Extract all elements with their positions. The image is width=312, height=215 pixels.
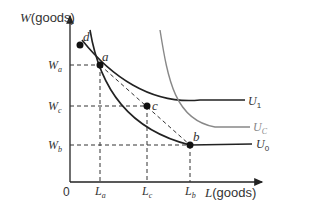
point-label-b: b — [193, 129, 200, 144]
point-label-a: a — [102, 49, 109, 64]
curve-label-uc: UC — [253, 120, 268, 136]
y-tick-wc: Wc — [48, 99, 62, 115]
indifference-curve-diagram: d a c b W(goods) L(goods) 0 Wa Wc Wb La … — [0, 0, 312, 215]
origin-label: 0 — [63, 185, 70, 199]
x-tick-lc: Lc — [141, 184, 153, 200]
point-label-d: d — [83, 29, 90, 44]
point-label-c: c — [152, 98, 158, 113]
curve-uc — [160, 30, 250, 127]
x-tick-lb: Lb — [184, 184, 196, 200]
curve-label-u1: U1 — [248, 94, 262, 110]
curve-label-u0: U0 — [256, 137, 270, 153]
x-tick-la: La — [94, 184, 106, 200]
y-axis-label: W(goods) — [20, 10, 75, 25]
y-tick-wb: Wb — [48, 138, 62, 154]
y-tick-wa: Wa — [48, 58, 62, 74]
point-c — [144, 103, 151, 110]
x-axis-label: L(goods) — [204, 185, 256, 200]
